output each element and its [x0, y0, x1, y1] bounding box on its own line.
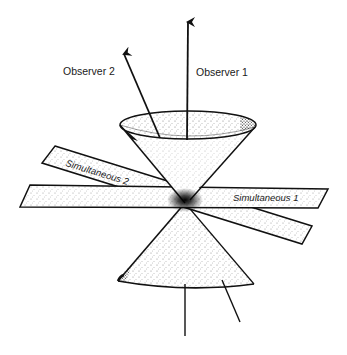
event-origin — [167, 188, 203, 212]
light-cone-diagram — [0, 0, 347, 355]
observer-2-label: Observer 2 — [63, 65, 115, 77]
simultaneous-1-label: Simultaneous 1 — [233, 192, 298, 203]
observer-1-arrow — [187, 22, 188, 140]
observer-1-label: Observer 1 — [196, 66, 248, 78]
